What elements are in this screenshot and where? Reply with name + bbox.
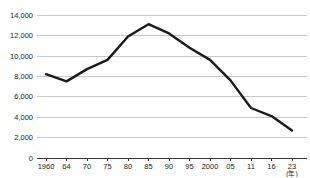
y-tick-label: 6,000	[14, 92, 33, 101]
x-tick-label: 95	[185, 162, 193, 171]
y-tick-label: 10,000	[10, 52, 33, 61]
x-tick-label: 64	[62, 162, 70, 171]
y-tick-label: 2,000	[14, 133, 33, 142]
x-tick-label: 11	[247, 162, 255, 171]
x-tick-label: 2000	[202, 162, 219, 171]
x-tick-label: 16	[267, 162, 275, 171]
y-tick-label: 0	[29, 154, 33, 163]
x-tick-label: 05	[226, 162, 234, 171]
y-tick-label: 12,000	[10, 31, 33, 40]
x-tick-label: 75	[103, 162, 111, 171]
x-tick-label: 85	[144, 162, 152, 171]
x-tick-label: 90	[165, 162, 173, 171]
x-tick-label: 80	[124, 162, 132, 171]
chart-container: 02,0004,0006,0008,00010,00012,00014,0001…	[0, 0, 310, 177]
x-axis-unit-label: (年)	[286, 169, 297, 178]
y-tick-label: 8,000	[14, 72, 33, 81]
x-tick-label: 70	[83, 162, 91, 171]
y-tick-label: 4,000	[14, 113, 33, 122]
line-chart: 02,0004,0006,0008,00010,00012,00014,0001…	[0, 0, 310, 177]
x-tick-label: 1960	[38, 162, 55, 171]
y-tick-label: 14,000	[10, 11, 33, 20]
data-line	[46, 24, 292, 130]
